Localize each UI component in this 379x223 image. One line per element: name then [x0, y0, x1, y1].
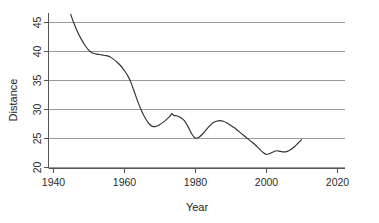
- line-chart: 202530354045 19401960198020002020 Distan…: [0, 0, 379, 223]
- x-tick-label-2000: 2000: [255, 176, 279, 188]
- y-tick-label-20: 20: [31, 162, 43, 174]
- y-tick-label-30: 30: [31, 104, 43, 116]
- chart-container: 202530354045 19401960198020002020 Distan…: [0, 0, 379, 223]
- x-axis-title: Year: [186, 201, 209, 213]
- y-axis-title: Distance: [7, 79, 19, 122]
- x-tick-label-1940: 1940: [42, 176, 66, 188]
- x-tick-label-1960: 1960: [113, 176, 137, 188]
- y-tick-label-35: 35: [31, 75, 43, 87]
- y-tick-label-40: 40: [31, 46, 43, 58]
- x-tick-label-1980: 1980: [184, 176, 208, 188]
- x-tick-label-2020: 2020: [326, 176, 350, 188]
- chart-background: [0, 0, 379, 223]
- y-tick-label-25: 25: [31, 133, 43, 145]
- y-tick-label-45: 45: [31, 17, 43, 29]
